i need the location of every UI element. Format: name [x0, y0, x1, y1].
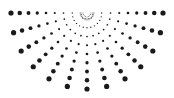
ray-dot: [70, 29, 72, 31]
ray-dot: [74, 20, 75, 21]
ray-dot: [76, 23, 77, 24]
ray-dot: [133, 24, 136, 27]
ray-dot: [85, 78, 90, 83]
arc-dot: [84, 19, 85, 20]
ray-dot: [125, 22, 128, 25]
ray-dot: [70, 40, 72, 42]
ray-dot: [93, 13, 94, 14]
ray-dot: [60, 54, 63, 57]
ray-dot: [85, 70, 89, 74]
arc-dot: [88, 19, 89, 20]
arc-dot: [83, 13, 84, 14]
ray-dot: [57, 41, 60, 44]
ray-dot: [46, 76, 51, 81]
arc-dot: [94, 13, 95, 14]
ray-dot: [50, 47, 53, 50]
sunburst-graphic: [0, 0, 174, 98]
ray-dot: [115, 41, 118, 44]
arc-dot: [80, 13, 81, 14]
ray-dot: [84, 18, 85, 19]
ray-dot: [82, 17, 83, 18]
ray-dot: [102, 76, 107, 81]
ray-dot: [42, 36, 45, 39]
arc-dot: [92, 16, 93, 17]
dotted-sunburst-icon: [0, 0, 174, 98]
ray-dot: [87, 19, 88, 20]
ray-dot: [31, 64, 36, 69]
ray-dot: [160, 10, 165, 15]
ray-dot: [72, 16, 73, 17]
ray-dot: [107, 24, 109, 26]
ray-dot: [99, 20, 100, 21]
ray-dot: [98, 33, 100, 35]
ray-dot: [103, 29, 105, 31]
ray-dot: [37, 58, 42, 63]
ray-dot: [72, 59, 75, 62]
ray-dot: [88, 18, 89, 19]
ray-dot: [121, 47, 124, 50]
arc-dot: [82, 18, 83, 19]
arc-dot: [84, 15, 85, 16]
ray-dot: [74, 33, 76, 35]
arc-dot: [93, 15, 94, 16]
ray-dot: [126, 52, 130, 56]
arc-dot: [83, 14, 84, 15]
ray-dot: [136, 40, 140, 44]
ray-dot: [81, 14, 82, 15]
ray-dot: [50, 32, 53, 35]
ray-dot: [110, 12, 112, 14]
ray-dot: [104, 84, 109, 89]
ray-dot: [118, 12, 120, 14]
ray-dot: [109, 18, 111, 20]
arc-dot: [89, 19, 90, 20]
ray-dot: [150, 48, 155, 53]
ray-dot: [80, 35, 82, 37]
ray-dot: [63, 18, 65, 20]
arc-dot: [91, 13, 92, 14]
ray-dot: [44, 52, 48, 56]
ray-dot: [65, 84, 70, 89]
ray-dot: [29, 26, 33, 30]
ray-dot: [83, 27, 84, 28]
ray-dot: [94, 43, 96, 45]
arc-dot: [89, 15, 90, 16]
ray-dot: [81, 16, 82, 17]
ray-dot: [85, 61, 88, 64]
ray-dot: [106, 47, 109, 50]
ray-dot: [45, 12, 48, 15]
ray-dot: [63, 12, 65, 14]
ray-dot: [63, 35, 65, 37]
ray-dot: [54, 12, 56, 14]
ray-dot: [72, 12, 73, 13]
ray-dot: [85, 18, 86, 19]
ray-dot: [70, 68, 74, 72]
ray-dot: [55, 20, 57, 22]
ray-dot: [17, 11, 22, 16]
ray-dot: [79, 25, 80, 26]
ray-dot: [8, 10, 13, 15]
ray-dot: [150, 28, 155, 33]
ray-dot: [114, 62, 118, 66]
ray-dot: [75, 51, 78, 54]
ray-dot: [122, 76, 127, 81]
arc-dot: [87, 17, 88, 18]
ray-dot: [138, 64, 143, 69]
ray-dot: [128, 36, 131, 39]
ray-dot: [51, 69, 56, 74]
ray-dot: [114, 28, 116, 30]
ray-dot: [81, 13, 82, 14]
ray-dot: [92, 14, 93, 15]
ray-dot: [78, 43, 80, 45]
ray-dot: [20, 28, 25, 33]
arc-dot: [81, 16, 82, 17]
ray-dot: [26, 44, 31, 49]
arc-dot: [90, 14, 91, 15]
ray-dot: [152, 11, 157, 16]
ray-dot: [101, 12, 102, 13]
arc-dot: [91, 18, 92, 19]
ray-dot: [92, 35, 94, 37]
ray-dot: [109, 35, 111, 37]
ray-dot: [97, 23, 98, 24]
ray-dot: [94, 25, 95, 26]
ray-dot: [66, 24, 68, 26]
